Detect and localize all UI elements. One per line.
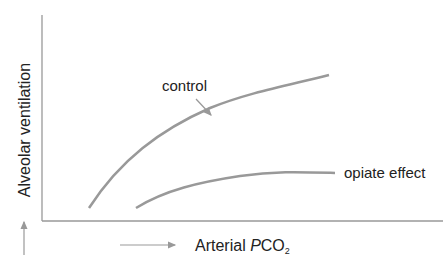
y-axis-label: Alveolar ventilation xyxy=(16,63,33,197)
control-curve xyxy=(89,75,329,208)
opiate-curve xyxy=(136,172,335,208)
x-axis-label: Arterial PCO2 xyxy=(195,237,290,256)
control-label: control xyxy=(162,77,207,94)
opiate-label: opiate effect xyxy=(344,164,426,181)
ventilation-diagram: control opiate effect Alveolar ventilati… xyxy=(0,0,443,269)
